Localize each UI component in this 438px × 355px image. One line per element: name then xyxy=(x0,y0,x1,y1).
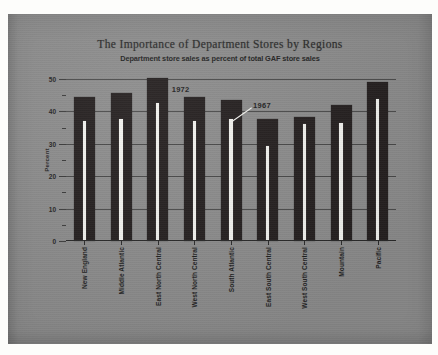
y-axis-minor-tick xyxy=(62,95,66,96)
bar-group[interactable]: West North Central xyxy=(184,79,205,241)
y-axis-tick-label: 30 xyxy=(49,140,56,147)
x-axis-label: West South Central xyxy=(301,247,308,309)
bar-1967[interactable] xyxy=(339,123,342,241)
y-axis-minor-tick xyxy=(62,225,66,226)
bar-group[interactable]: Pacific xyxy=(367,79,388,241)
y-axis-tick xyxy=(59,144,66,145)
bar-group[interactable]: New England xyxy=(74,79,95,241)
y-axis-tick xyxy=(59,176,66,177)
x-axis-label: Mountain xyxy=(338,247,345,277)
x-axis-label: New England xyxy=(81,247,88,289)
x-axis-label: East North Central xyxy=(154,247,161,306)
chart-subtitle: Department store sales as percent of tot… xyxy=(25,54,415,63)
x-axis-label: South Atlantic xyxy=(228,247,235,292)
y-axis-tick xyxy=(59,241,66,242)
x-axis-tick xyxy=(341,241,342,245)
x-axis-tick xyxy=(158,241,159,245)
bar-group[interactable]: West South Central xyxy=(294,79,315,241)
x-axis-label: Pacific xyxy=(374,247,381,269)
annotation-1967: 1967 xyxy=(253,101,271,110)
x-axis-tick xyxy=(121,241,122,245)
x-axis-tick xyxy=(304,241,305,245)
x-axis-tick xyxy=(268,241,269,245)
y-axis-tick-label: 50 xyxy=(49,76,56,83)
bar-group[interactable]: Middle Atlantic xyxy=(111,79,132,241)
y-axis-tick-label: 0 xyxy=(52,238,56,245)
bar-1967[interactable] xyxy=(376,99,379,241)
bar-1967[interactable] xyxy=(156,103,159,241)
bar-1967[interactable] xyxy=(193,121,196,241)
y-axis-minor-tick xyxy=(62,160,66,161)
x-axis-label: East South Central xyxy=(264,247,271,307)
bar-group[interactable]: East North Central xyxy=(147,79,168,241)
x-axis-baseline xyxy=(66,240,396,241)
scanned-chart-page: The Importance of Department Stores by R… xyxy=(0,0,438,355)
x-axis-tick xyxy=(84,241,85,245)
bar-1967[interactable] xyxy=(303,124,306,241)
x-axis-label: West North Central xyxy=(191,247,198,308)
y-axis-tick xyxy=(59,209,66,210)
bar-group[interactable]: Mountain xyxy=(331,79,352,241)
bar-group[interactable]: South Atlantic xyxy=(221,79,242,241)
bar-1967[interactable] xyxy=(229,119,232,241)
x-axis-tick xyxy=(231,241,232,245)
x-axis-tick xyxy=(378,241,379,245)
y-axis-title: Percent xyxy=(44,148,50,171)
scan-edge-bottom xyxy=(8,330,432,344)
chart-figure: The Importance of Department Stores by R… xyxy=(8,14,432,344)
scan-edge-left xyxy=(8,14,18,344)
y-axis-minor-tick xyxy=(62,128,66,129)
y-axis-tick xyxy=(59,111,66,112)
x-axis-label: Middle Atlantic xyxy=(118,247,125,294)
y-axis-minor-tick xyxy=(62,192,66,193)
y-axis-tick-label: 10 xyxy=(49,205,56,212)
bar-1967[interactable] xyxy=(83,121,86,241)
y-axis-tick-label: 40 xyxy=(49,108,56,115)
chart-title: The Importance of Department Stores by R… xyxy=(8,38,432,50)
annotation-1972: 1972 xyxy=(172,85,190,94)
bar-1967[interactable] xyxy=(266,146,269,241)
y-axis-tick-label: 20 xyxy=(49,173,56,180)
plot-area: Percent 01020304050 New EnglandMiddle At… xyxy=(66,79,396,241)
y-axis-tick xyxy=(59,79,66,80)
x-axis-tick xyxy=(194,241,195,245)
scan-edge-right xyxy=(418,14,432,344)
bar-1967[interactable] xyxy=(119,119,122,241)
